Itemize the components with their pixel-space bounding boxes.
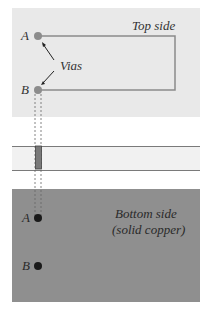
arrow-to-via-b-icon: [43, 71, 54, 83]
via-a-label: A: [21, 28, 29, 44]
via-b-top-icon: [34, 86, 42, 94]
arrow-to-via-a-icon: [43, 44, 54, 60]
bottom-side-sublabel: (solid copper): [112, 222, 185, 238]
via-b-label: B: [21, 82, 29, 98]
vias-label: Vias: [60, 58, 82, 74]
copper-trace: [38, 36, 175, 90]
via-b-bottom-icon: [34, 262, 42, 270]
diagram-graphics: [0, 0, 212, 316]
via-a-bottom-icon: [34, 214, 42, 222]
top-side-label: Top side: [132, 18, 175, 34]
via-barrel: [36, 146, 42, 169]
bottom-via-a-label: A: [22, 210, 30, 226]
bottom-side-label: Bottom side: [115, 206, 177, 222]
bottom-via-b-label: B: [22, 258, 30, 274]
via-a-top-icon: [34, 32, 42, 40]
